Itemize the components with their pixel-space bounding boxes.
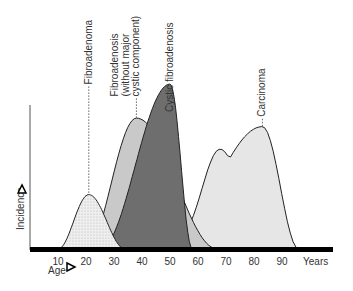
series-label: Carcinoma bbox=[256, 68, 267, 117]
series-label: cystic component) bbox=[130, 16, 141, 97]
x-axis-baseline bbox=[30, 247, 333, 252]
x-tick-label: 70 bbox=[220, 256, 232, 267]
y-axis-arrow-icon bbox=[18, 185, 26, 193]
x-tick-label: 20 bbox=[80, 256, 92, 267]
x-unit-label: Years bbox=[303, 256, 328, 267]
incidence-by-age-chart: FibroadenomaFibroadenosis(without majorc… bbox=[0, 0, 353, 291]
x-tick-label: 50 bbox=[164, 256, 176, 267]
x-tick-label: 60 bbox=[192, 256, 204, 267]
series-label: Fibroadenosis bbox=[109, 34, 120, 97]
x-tick-label: 30 bbox=[108, 256, 120, 267]
series-label: Cystic fibroadenosis bbox=[164, 23, 175, 112]
series-label: Fibroadenoma bbox=[83, 19, 94, 84]
series-label: (without major bbox=[120, 33, 131, 96]
x-axis-arrow-icon bbox=[67, 263, 75, 271]
x-tick-label: 80 bbox=[248, 256, 260, 267]
x-tick-label: 90 bbox=[276, 256, 288, 267]
x-axis-title: Age bbox=[48, 265, 66, 276]
x-tick-label: 40 bbox=[136, 256, 148, 267]
